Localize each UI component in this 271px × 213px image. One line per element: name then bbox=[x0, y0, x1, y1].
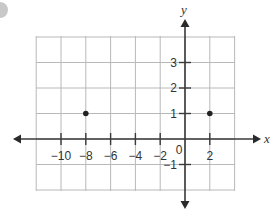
x-tick-label: 2 bbox=[206, 149, 213, 163]
data-point bbox=[207, 111, 213, 117]
coordinate-plane: x y −10−8−6−4−22321−10 bbox=[0, 0, 271, 213]
y-axis-up-arrow-icon bbox=[181, 19, 190, 27]
axes: x y bbox=[13, 2, 270, 209]
y-axis-down-arrow-icon bbox=[181, 201, 190, 209]
x-axis-label: x bbox=[263, 131, 270, 146]
y-tick-label: −1 bbox=[163, 158, 177, 172]
origin-label: 0 bbox=[176, 143, 183, 157]
y-tick-label: 1 bbox=[170, 107, 177, 121]
x-tick-label: −4 bbox=[129, 149, 143, 163]
y-tick-label: 2 bbox=[170, 81, 177, 95]
grid bbox=[36, 36, 234, 191]
y-tick-label: 3 bbox=[170, 56, 177, 70]
x-tick-label: −10 bbox=[51, 149, 72, 163]
y-axis-label: y bbox=[179, 2, 187, 17]
data-point bbox=[83, 111, 89, 117]
x-tick-label: −8 bbox=[79, 149, 93, 163]
x-axis-left-arrow-icon bbox=[13, 135, 21, 144]
x-axis-right-arrow-icon bbox=[253, 135, 261, 144]
x-tick-label: −6 bbox=[104, 149, 118, 163]
